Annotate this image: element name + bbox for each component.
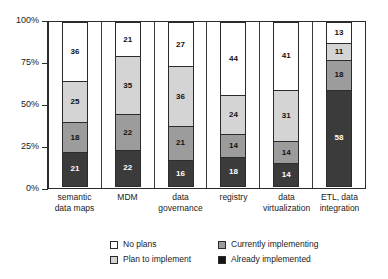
stacked-bar[interactable]: 44241418 [220, 22, 246, 188]
x-axis-category-label: semanticdata maps [48, 192, 101, 214]
y-axis-tick-label: 75% [21, 58, 39, 67]
x-axis-category-label-line: integration [314, 203, 365, 214]
bar-segment-noplans[interactable]: 44 [220, 22, 246, 96]
bar-segment-current[interactable]: 22 [115, 114, 141, 151]
stacked-bar[interactable]: 36251821 [62, 22, 88, 188]
bar-segment-current[interactable]: 14 [273, 141, 299, 165]
stacked-bar[interactable]: 21352222 [115, 22, 141, 188]
y-axis-tick [42, 63, 47, 64]
bar-segment-already[interactable]: 58 [326, 90, 352, 187]
bar-segment-current[interactable]: 18 [326, 60, 352, 90]
x-axis-category-label-line: data maps [49, 203, 100, 214]
legend-swatch-icon [110, 241, 118, 249]
x-axis-category-label-line: virtualization [261, 203, 312, 214]
bar-group: 21352222 [102, 22, 155, 188]
y-axis-tick-label: 25% [21, 142, 39, 151]
legend-item-label: Already implemented [231, 255, 311, 264]
bar-segment-value: 31 [282, 112, 291, 120]
bar-segment-noplans[interactable]: 41 [273, 22, 299, 91]
stacked-bar[interactable]: 27362116 [168, 22, 194, 188]
bar-segment-value: 13 [335, 29, 344, 37]
y-axis-tick [42, 105, 47, 106]
bar-segment-noplans[interactable]: 27 [168, 22, 194, 67]
bar-segment-value: 36 [176, 93, 185, 101]
x-axis-category-label-line: ETL, data [314, 192, 365, 203]
bar-segment-value: 21 [123, 36, 132, 44]
stacked-bar[interactable]: 41311414 [273, 22, 299, 188]
bar-segment-value: 16 [176, 170, 185, 178]
bar-segment-plan[interactable]: 11 [326, 43, 352, 61]
bar-segment-plan[interactable]: 24 [220, 95, 246, 135]
bar-segment-already[interactable]: 14 [273, 163, 299, 187]
legend-item-plan[interactable]: Plan to implement [110, 255, 218, 264]
stacked-bar[interactable]: 13111858 [326, 22, 352, 188]
legend-item-label: No plans [123, 240, 157, 249]
bar-segment-value: 18 [70, 134, 79, 142]
bar-segment-noplans[interactable]: 21 [115, 22, 141, 57]
x-axis-category-label: datagovernance [154, 192, 207, 214]
bar-segment-current[interactable]: 14 [220, 134, 246, 158]
x-axis-labels: semanticdata mapsMDMdatagovernanceregist… [48, 192, 366, 214]
x-axis-category-label-line: data [155, 192, 206, 203]
y-axis-tick [42, 189, 47, 190]
x-axis-category-label-line: governance [155, 203, 206, 214]
bar-group: 27362116 [155, 22, 208, 188]
bar-segment-noplans[interactable]: 13 [326, 22, 352, 44]
bar-segment-value: 35 [123, 82, 132, 90]
legend-item-label: Currently implementing [231, 240, 318, 249]
stacked-bar-chart: 100%75%50%25%0% 362518212135222227362116… [0, 0, 388, 279]
y-axis-tick-label: 0% [26, 184, 39, 193]
bar-segment-value: 36 [70, 48, 79, 56]
x-axis-category-label-line: registry [208, 192, 259, 203]
y-axis-tick [42, 147, 47, 148]
legend-item-current[interactable]: Currently implementing [218, 240, 370, 249]
bar-segment-value: 18 [335, 71, 344, 79]
bar-group: 41311414 [260, 22, 313, 188]
chart-legend: No plansCurrently implementingPlan to im… [110, 237, 370, 267]
x-axis-category-label-line: semantic [49, 192, 100, 203]
x-axis-category-label-line: data [261, 192, 312, 203]
bar-segment-value: 22 [123, 164, 132, 172]
bar-segment-value: 21 [70, 165, 79, 173]
legend-item-already[interactable]: Already implemented [218, 255, 370, 264]
x-axis-category-label: ETL, dataintegration [313, 192, 366, 214]
legend-item-noplans[interactable]: No plans [110, 240, 218, 249]
bar-group-container: 3625182121352222273621164424141841311414… [49, 22, 365, 188]
y-axis-tick [42, 21, 47, 22]
bar-segment-already[interactable]: 16 [168, 160, 194, 187]
x-axis-category-label: registry [207, 192, 260, 214]
bar-segment-already[interactable]: 18 [220, 157, 246, 187]
legend-item-label: Plan to implement [123, 255, 191, 264]
bar-segment-already[interactable]: 21 [62, 152, 88, 187]
bar-group: 36251821 [49, 22, 102, 188]
bar-segment-plan[interactable]: 36 [168, 66, 194, 126]
legend-swatch-icon [218, 241, 226, 249]
bar-segment-already[interactable]: 22 [115, 150, 141, 187]
bar-segment-noplans[interactable]: 36 [62, 22, 88, 82]
bar-segment-current[interactable]: 21 [168, 126, 194, 161]
bar-group: 44241418 [207, 22, 260, 188]
bar-segment-value: 25 [70, 98, 79, 106]
x-axis-category-label: MDM [101, 192, 154, 214]
bar-segment-value: 41 [282, 52, 291, 60]
bar-group: 13111858 [313, 22, 365, 188]
bar-segment-value: 11 [335, 48, 343, 56]
x-axis-category-label-line: MDM [102, 192, 153, 203]
bar-segment-current[interactable]: 18 [62, 122, 88, 152]
bar-segment-plan[interactable]: 31 [273, 90, 299, 142]
bar-segment-value: 22 [123, 129, 132, 137]
bar-segment-value: 18 [229, 168, 238, 176]
x-axis-category-label: datavirtualization [260, 192, 313, 214]
bar-segment-value: 27 [176, 41, 185, 49]
bar-segment-value: 14 [282, 149, 291, 157]
bar-segment-value: 14 [282, 171, 291, 179]
y-axis-tick-label: 100% [16, 16, 39, 25]
y-axis-tick-label: 50% [21, 100, 39, 109]
plot-area: 3625182121352222273621164424141841311414… [48, 21, 366, 189]
bar-segment-plan[interactable]: 35 [115, 56, 141, 115]
bar-segment-value: 21 [176, 139, 185, 147]
bar-segment-plan[interactable]: 25 [62, 81, 88, 123]
bar-segment-value: 58 [335, 134, 344, 142]
bar-segment-value: 14 [229, 142, 238, 150]
legend-swatch-icon [218, 256, 226, 264]
